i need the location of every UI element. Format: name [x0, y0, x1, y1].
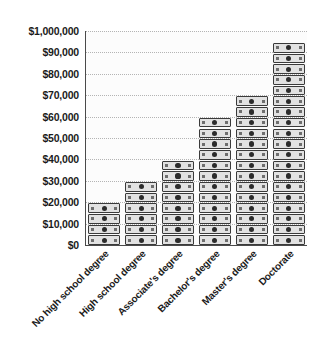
banknote-icon [88, 203, 120, 213]
y-tick-label: $10,000 [42, 218, 79, 230]
banknote-icon [162, 182, 194, 192]
banknote-icon [199, 182, 231, 192]
banknote-icon [199, 225, 231, 235]
banknote-icon [125, 235, 157, 245]
banknote-icon [273, 43, 305, 53]
banknote-icon [199, 161, 231, 171]
y-axis: $0$10,000$20,000$30,000$40,000$50,000$60… [0, 0, 84, 356]
bar-bachelor-s-degree [199, 117, 231, 245]
banknote-icon [199, 203, 231, 213]
banknote-icon [162, 161, 194, 171]
banknote-icon [199, 171, 231, 181]
banknote-icon [273, 118, 305, 128]
banknote-icon [236, 129, 268, 139]
banknote-icon [273, 86, 305, 96]
banknote-icon [236, 182, 268, 192]
banknote-icon [88, 235, 120, 245]
banknote-icon [125, 203, 157, 213]
bars-container [86, 31, 307, 245]
banknote-icon [199, 214, 231, 224]
banknote-icon [273, 64, 305, 74]
banknote-icon [273, 75, 305, 85]
banknote-icon [273, 96, 305, 106]
banknote-icon [199, 150, 231, 160]
banknote-icon [273, 139, 305, 149]
y-tick-label: $90,000 [42, 46, 79, 58]
banknote-icon [199, 139, 231, 149]
y-tick-label: $50,000 [42, 132, 79, 144]
y-tick-label: $0 [68, 239, 79, 251]
banknote-icon [236, 118, 268, 128]
banknote-icon [125, 182, 157, 192]
banknote-icon [236, 96, 268, 106]
banknote-icon [199, 129, 231, 139]
y-tick-label: $30,000 [42, 175, 79, 187]
banknote-icon [162, 203, 194, 213]
banknote-icon [273, 225, 305, 235]
banknote-icon [273, 203, 305, 213]
banknote-icon [125, 214, 157, 224]
banknote-icon [236, 139, 268, 149]
banknote-icon [273, 171, 305, 181]
y-tick-label: $70,000 [42, 89, 79, 101]
x-axis: No high school degreeHigh school degreeA… [85, 248, 306, 354]
banknote-icon [273, 182, 305, 192]
banknote-icon [162, 235, 194, 245]
banknote-icon [162, 171, 194, 181]
banknote-icon [273, 129, 305, 139]
banknote-icon [236, 214, 268, 224]
banknote-icon [236, 203, 268, 213]
banknote-icon [199, 118, 231, 128]
bar-high-school-degree [125, 181, 157, 245]
banknote-icon [162, 214, 194, 224]
banknote-icon [162, 225, 194, 235]
banknote-icon [236, 161, 268, 171]
banknote-icon [199, 235, 231, 245]
plot-area [85, 31, 307, 246]
banknote-icon [273, 150, 305, 160]
bar-no-high-school-degree [88, 202, 120, 245]
banknote-icon [125, 193, 157, 203]
banknote-icon [273, 54, 305, 64]
banknote-icon [273, 235, 305, 245]
y-tick-label: $1,000,000 [28, 25, 79, 37]
banknote-icon [273, 214, 305, 224]
banknote-icon [273, 107, 305, 117]
bar-associate-s-degree [162, 160, 194, 246]
banknote-icon [88, 214, 120, 224]
banknote-icon [273, 193, 305, 203]
banknote-icon [199, 193, 231, 203]
y-tick-label: $20,000 [42, 196, 79, 208]
banknote-icon [236, 225, 268, 235]
banknote-icon [236, 235, 268, 245]
banknote-icon [88, 225, 120, 235]
bar-doctorate [273, 42, 305, 245]
y-tick-label: $40,000 [42, 153, 79, 165]
banknote-icon [162, 193, 194, 203]
banknote-icon [236, 193, 268, 203]
y-tick-label: $60,000 [42, 111, 79, 123]
y-tick-label: $80,000 [42, 68, 79, 80]
pictograph-bar-chart: $0$10,000$20,000$30,000$40,000$50,000$60… [0, 0, 315, 356]
banknote-icon [236, 107, 268, 117]
banknote-icon [273, 161, 305, 171]
banknote-icon [236, 150, 268, 160]
bar-master-s-degree [236, 95, 268, 245]
banknote-icon [236, 171, 268, 181]
banknote-icon [125, 225, 157, 235]
